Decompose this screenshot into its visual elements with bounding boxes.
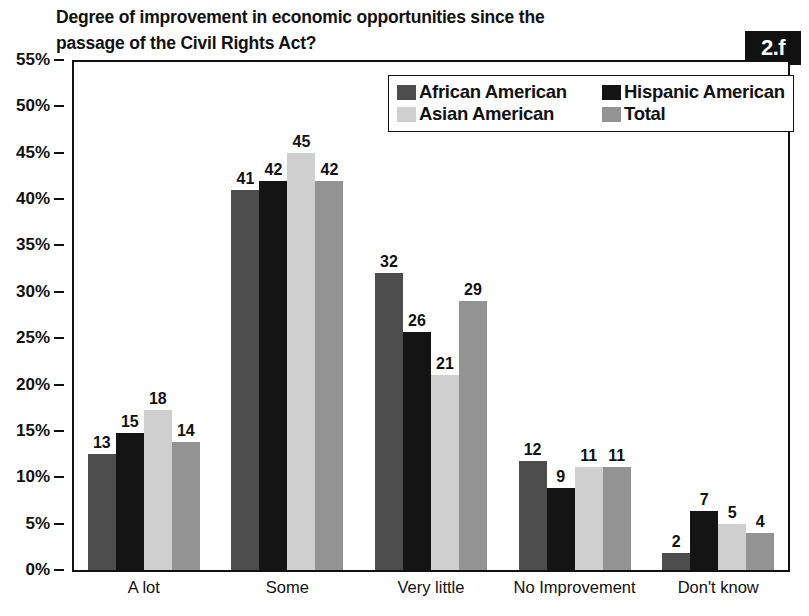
x-axis-category-label: Some [266, 578, 309, 597]
legend-item-asian-american: Asian American [397, 103, 602, 125]
y-axis-tick-label: 5% [25, 514, 50, 534]
y-axis-tick-label: 40% [16, 189, 50, 209]
legend-label-hispanic-american: Hispanic American [624, 81, 785, 103]
y-axis-tick-mark [54, 152, 64, 154]
y-axis-tick-mark [54, 569, 64, 571]
legend-label-asian-american: Asian American [419, 103, 554, 125]
y-axis-tick-label: 35% [16, 235, 50, 255]
x-axis-category-label: No Improvement [514, 578, 636, 597]
legend-swatch-african-american [397, 85, 416, 100]
x-axis-category-label: Don't know [678, 578, 759, 597]
y-axis-tick-mark [54, 59, 64, 61]
y-axis-tick-label: 20% [16, 375, 50, 395]
legend-swatch-total [602, 107, 621, 122]
x-axis-category-label: Very little [398, 578, 465, 597]
legend-item-african-american: African American [397, 81, 602, 103]
y-axis-tick-label: 25% [16, 328, 50, 348]
legend-swatch-hispanic-american [602, 85, 621, 100]
y-axis-tick-mark [54, 105, 64, 107]
y-axis-tick-label: 50% [16, 96, 50, 116]
page-title-line-1: Degree of improvement in economic opport… [56, 4, 696, 30]
y-axis-tick-label: 0% [25, 560, 50, 580]
y-axis-tick-label: 55% [16, 50, 50, 70]
page-title-line-2: passage of the Civil Rights Act? [56, 30, 696, 56]
y-axis-tick-mark [54, 430, 64, 432]
plot-area [72, 60, 790, 572]
page-title: Degree of improvement in economic opport… [56, 4, 696, 56]
y-axis: 0%5%10%15%20%25%30%35%40%45%50%55% [0, 60, 64, 572]
y-axis-tick-mark [54, 523, 64, 525]
y-axis-tick-mark [54, 291, 64, 293]
y-axis-tick-mark [54, 244, 64, 246]
y-axis-tick-label: 30% [16, 282, 50, 302]
y-axis-tick-mark [54, 476, 64, 478]
y-axis-tick-mark [54, 337, 64, 339]
legend-row-1: African American Hispanic American [397, 81, 785, 103]
legend-label-african-american: African American [419, 81, 567, 103]
legend-item-hispanic-american: Hispanic American [602, 81, 785, 103]
y-axis-tick-label: 15% [16, 421, 50, 441]
y-axis-tick-mark [54, 198, 64, 200]
x-axis-category-label: A lot [128, 578, 160, 597]
y-axis-tick-label: 10% [16, 467, 50, 487]
y-axis-tick-label: 45% [16, 143, 50, 163]
legend-row-2: Asian American Total [397, 103, 785, 125]
chart-legend: African American Hispanic American Asian… [388, 75, 794, 132]
legend-label-total: Total [624, 103, 665, 125]
legend-item-total: Total [602, 103, 665, 125]
x-axis: A lotSomeVery littleNo ImprovementDon't … [72, 578, 790, 608]
legend-swatch-asian-american [397, 107, 416, 122]
y-axis-tick-mark [54, 384, 64, 386]
